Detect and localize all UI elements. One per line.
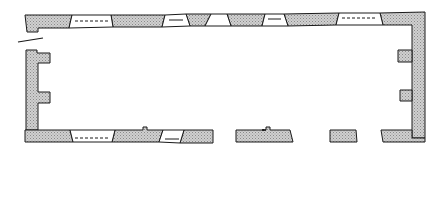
- top-wall: [25, 12, 425, 138]
- side-door-line: [18, 38, 43, 42]
- left-wall: [26, 50, 50, 130]
- right-wall-chimneys: [398, 50, 412, 101]
- floor-plan: [0, 0, 446, 211]
